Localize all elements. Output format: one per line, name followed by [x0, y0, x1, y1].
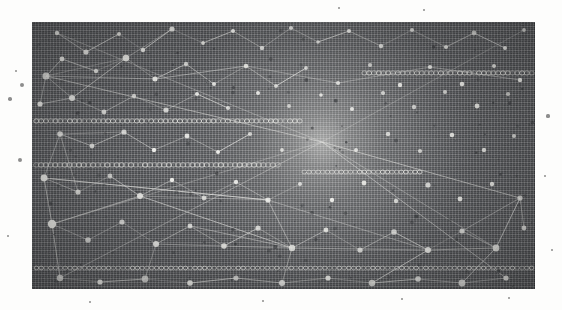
- outer-speck: [20, 83, 24, 87]
- outer-speck: [423, 9, 425, 11]
- outer-speck: [89, 301, 91, 303]
- outer-speck: [7, 235, 9, 237]
- outer-speck: [338, 7, 341, 10]
- outer-speck: [401, 298, 403, 300]
- outer-speck: [508, 297, 510, 299]
- film-grain-overlay: [32, 22, 535, 289]
- outer-speck: [551, 249, 553, 251]
- outer-speck: [546, 114, 549, 117]
- outer-speck: [262, 300, 265, 303]
- network-visualization-panel: [32, 22, 535, 289]
- outer-speck: [8, 97, 12, 101]
- outer-speck: [544, 175, 547, 178]
- outer-speck: [15, 70, 18, 73]
- visualization-stage: [0, 0, 562, 310]
- outer-speck: [18, 158, 22, 162]
